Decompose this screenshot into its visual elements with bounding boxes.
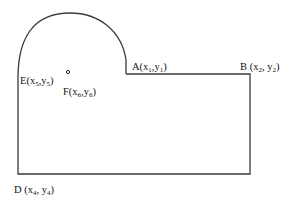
label-e: E(x5,y5) <box>20 75 54 88</box>
shape-diagram: A(x1,y1) B (x2, y2) E(x5,y5) F(x6,y6) D … <box>0 0 297 204</box>
label-b: B (x2, y2) <box>240 61 280 74</box>
diagram-canvas: A(x1,y1) B (x2, y2) E(x5,y5) F(x6,y6) D … <box>0 0 297 204</box>
label-f: F(x6,y6) <box>63 86 96 99</box>
shape-outline <box>18 13 250 174</box>
label-d: D (x4, y4) <box>14 184 54 197</box>
label-a: A(x1,y1) <box>132 61 167 74</box>
point-f-marker <box>66 70 69 73</box>
